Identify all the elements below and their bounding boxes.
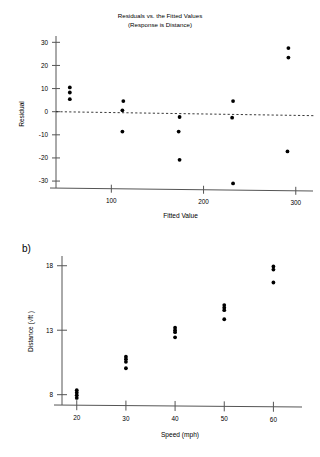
data-point bbox=[287, 56, 291, 60]
distance-speed-panel: b)813182030405060Speed (mph)Distance (√f… bbox=[0, 230, 320, 457]
residual-plot-svg: Residuals vs. the Fitted Values(Response… bbox=[0, 0, 320, 230]
y-axis-title: Residual bbox=[18, 101, 25, 127]
distance-speed-svg: b)813182030405060Speed (mph)Distance (√f… bbox=[0, 230, 320, 457]
data-point bbox=[231, 181, 235, 185]
data-point bbox=[68, 97, 72, 101]
data-point bbox=[177, 130, 181, 134]
y-tick-label: 8 bbox=[49, 391, 53, 398]
data-point bbox=[173, 330, 177, 334]
x-tick-label: 20 bbox=[73, 414, 81, 421]
data-point bbox=[178, 158, 182, 162]
x-axis-title: Fitted Value bbox=[163, 212, 198, 219]
y-tick-label: 20 bbox=[41, 62, 49, 69]
panel-label-b: b) bbox=[22, 243, 31, 254]
data-point bbox=[68, 86, 72, 90]
data-point bbox=[272, 268, 276, 272]
data-point bbox=[230, 116, 234, 120]
data-point bbox=[173, 335, 177, 339]
y-tick-label: 30 bbox=[41, 39, 49, 46]
data-point bbox=[121, 99, 125, 103]
data-point bbox=[124, 360, 128, 364]
data-point bbox=[222, 317, 226, 321]
data-point bbox=[121, 130, 125, 134]
chart-title: Residuals vs. the Fitted Values bbox=[118, 12, 203, 19]
data-point bbox=[75, 396, 79, 400]
zero-reference-line bbox=[56, 112, 315, 116]
y-tick-label: 10 bbox=[41, 85, 49, 92]
data-point bbox=[68, 91, 72, 95]
x-tick-label: 200 bbox=[198, 198, 209, 205]
data-point bbox=[286, 150, 290, 154]
data-point bbox=[272, 281, 276, 285]
y-tick-label: 0 bbox=[44, 108, 48, 115]
x-tick-label: 30 bbox=[122, 415, 130, 422]
x-axis-line bbox=[50, 188, 313, 191]
data-point bbox=[287, 46, 291, 50]
y-axis-title: Distance (√ft ) bbox=[27, 311, 35, 352]
y-tick-label: -10 bbox=[39, 131, 49, 138]
x-tick-label: 40 bbox=[172, 415, 180, 422]
y-tick-label: 13 bbox=[46, 327, 54, 334]
data-point bbox=[121, 108, 125, 112]
x-tick-label: 100 bbox=[106, 197, 117, 204]
data-point bbox=[178, 115, 182, 119]
residual-plot-panel: Residuals vs. the Fitted Values(Response… bbox=[0, 0, 320, 230]
data-point bbox=[124, 366, 128, 370]
y-tick-label: -30 bbox=[39, 177, 49, 184]
x-tick-label: 60 bbox=[270, 416, 278, 423]
y-tick-label: 18 bbox=[46, 262, 54, 269]
x-axis-line bbox=[54, 405, 302, 407]
data-point bbox=[222, 308, 226, 312]
chart-subtitle: (Response is Distance) bbox=[128, 21, 192, 28]
y-tick-label: -20 bbox=[39, 154, 49, 161]
x-tick-label: 300 bbox=[290, 199, 301, 206]
x-axis-title: Speed (mph) bbox=[161, 431, 199, 439]
x-tick-label: 50 bbox=[221, 415, 229, 422]
data-point bbox=[231, 99, 235, 103]
